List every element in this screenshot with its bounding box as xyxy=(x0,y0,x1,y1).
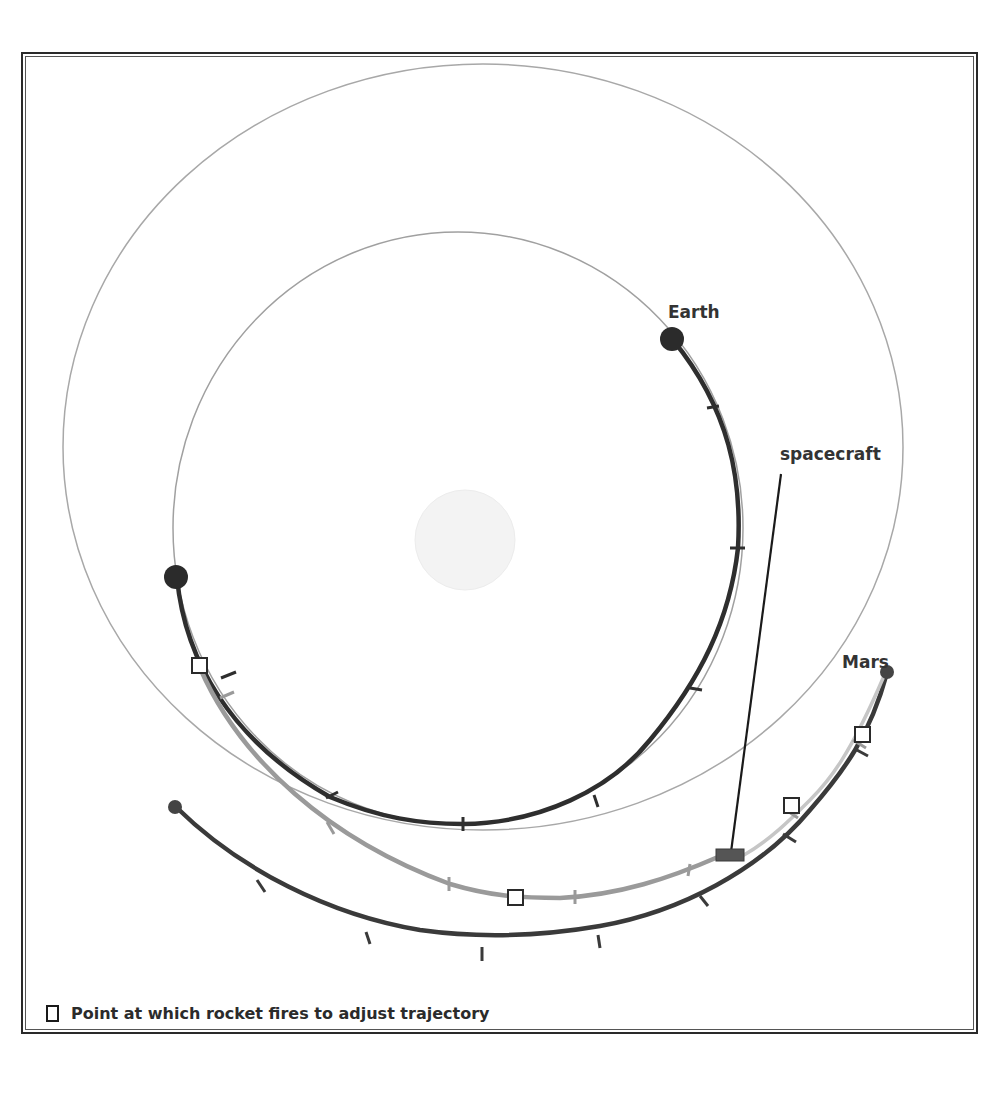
legend: Point at which rocket fires to adjust tr… xyxy=(46,1004,489,1023)
rocket-fire-marker-4 xyxy=(855,727,870,742)
earth-start-icon xyxy=(164,565,188,589)
earth-path-ticks xyxy=(221,406,745,831)
mars-start-icon xyxy=(168,800,182,814)
mars-label: Mars xyxy=(842,652,889,672)
spacecraft-label: spacecraft xyxy=(780,444,881,464)
legend-text: Point at which rocket fires to adjust tr… xyxy=(71,1004,489,1023)
rocket-fire-legend-icon xyxy=(46,1005,59,1022)
earth-label: Earth xyxy=(668,302,720,322)
rocket-fire-marker-1 xyxy=(192,658,207,673)
orbit-transfer-diagram: Earth spacecraft Mars xyxy=(0,0,998,1116)
transfer-trajectory-projected xyxy=(744,676,884,855)
rocket-fire-marker-2 xyxy=(508,890,523,905)
mars-orbit xyxy=(63,64,903,830)
spacecraft-icon xyxy=(716,849,744,861)
sun-icon xyxy=(415,490,515,590)
earth-icon xyxy=(660,327,684,351)
rocket-fire-marker-3 xyxy=(784,798,799,813)
rocket-fire-markers xyxy=(192,658,870,905)
transfer-trajectory xyxy=(200,668,718,898)
